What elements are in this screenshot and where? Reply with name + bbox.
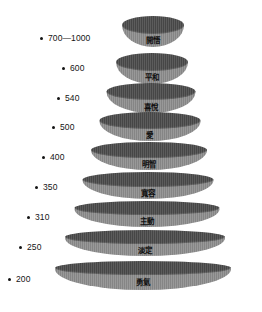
scale-row: 700—1000	[40, 32, 90, 44]
scale-value: 350	[43, 183, 57, 192]
disc-top	[91, 142, 207, 158]
disc-tier-7[interactable]: 主動	[75, 201, 220, 230]
scale-row: 400	[42, 151, 64, 163]
scale-row: 540	[57, 92, 79, 104]
scale-value: 200	[16, 275, 30, 284]
disc-label: 平和	[116, 74, 188, 82]
scale-row: 200	[8, 273, 30, 285]
scale-row: 600	[62, 62, 84, 74]
disc-label: 愛	[100, 132, 201, 140]
disc-top	[100, 112, 201, 129]
bullet-icon	[27, 216, 30, 219]
disc-tier-2[interactable]: 平和	[116, 53, 188, 87]
disc-tier-9[interactable]: 勇氣	[55, 261, 231, 293]
bullet-icon	[52, 126, 55, 129]
bullet-icon	[57, 97, 60, 100]
bullet-icon	[40, 37, 43, 40]
disc-top	[65, 230, 225, 244]
scale-value: 400	[50, 153, 64, 162]
disc-top	[75, 201, 220, 215]
scale-value: 250	[27, 243, 41, 252]
bullet-icon	[35, 186, 38, 189]
disc-label: 淡定	[65, 247, 225, 255]
disc-top	[122, 16, 184, 34]
scale-value: 540	[65, 94, 79, 103]
bullet-icon	[8, 278, 11, 281]
disc-tier-6[interactable]: 寬容	[83, 172, 214, 202]
bullet-icon	[62, 67, 65, 70]
disc-label: 明智	[91, 161, 207, 169]
disc-top	[55, 261, 231, 275]
disc-label: 喜悅	[107, 104, 196, 112]
disc-tier-8[interactable]: 淡定	[65, 230, 225, 259]
disc-tier-5[interactable]: 明智	[91, 142, 207, 173]
disc-tier-1[interactable]: 開悟	[122, 16, 184, 50]
scale-row: 310	[27, 211, 49, 223]
disc-top	[107, 83, 196, 100]
scale-value: 600	[70, 64, 84, 73]
disc-top	[116, 53, 188, 71]
scale-value: 700—1000	[48, 34, 90, 43]
disc-label: 寬容	[83, 190, 214, 198]
bullet-icon	[19, 246, 22, 249]
bullet-icon	[42, 156, 45, 159]
disc-label: 開悟	[122, 37, 184, 45]
scale-row: 500	[52, 121, 74, 133]
disc-tier-4[interactable]: 愛	[100, 112, 201, 144]
scale-row: 350	[35, 181, 57, 193]
scale-value: 500	[60, 123, 74, 132]
disc-label: 主動	[75, 218, 220, 226]
disc-top	[83, 172, 214, 187]
scale-row: 250	[19, 241, 41, 253]
scale-value: 310	[35, 213, 49, 222]
disc-label: 勇氣	[55, 279, 231, 287]
consciousness-scale-diagram: 700—1000 600 540 500 400 350 310 250 200…	[0, 0, 262, 312]
